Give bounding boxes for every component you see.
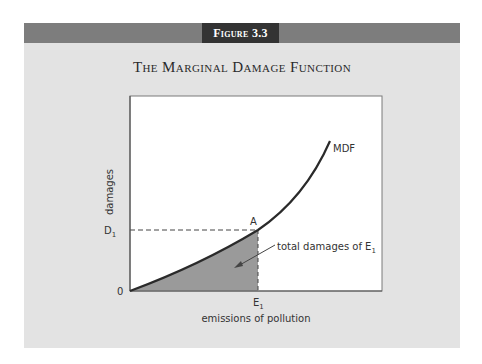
mdf-label: MDF [333, 143, 355, 154]
e1-sub: 1 [259, 303, 263, 311]
d1-sub: 1 [112, 231, 116, 239]
area-annotation-text: total damages of E [277, 241, 371, 252]
area-annotation-sub: 1 [371, 247, 375, 255]
x-axis-title: emissions of pollution [201, 313, 310, 324]
y-axis-title: damages [104, 169, 115, 215]
point-a-label: A [250, 216, 257, 227]
e1-tick-label: E1 [253, 297, 264, 311]
d1-tick-label: D1 [104, 225, 116, 239]
marginal-damage-chart: MDF A total damages of E1 D1 0 E1 emissi… [0, 0, 482, 364]
origin-label: 0 [117, 286, 123, 297]
